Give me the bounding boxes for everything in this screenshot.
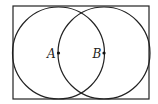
point-a (57, 51, 60, 54)
bounding-rectangle (13, 6, 149, 99)
point-b (102, 51, 105, 54)
diagram-canvas: A B (0, 0, 158, 104)
label-a: A (46, 47, 56, 61)
label-b: B (92, 47, 102, 61)
